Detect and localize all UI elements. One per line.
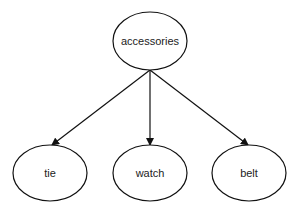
tree-diagram: accessories tie watch belt <box>0 0 299 214</box>
node-label-belt: belt <box>240 167 258 179</box>
node-accessories: accessories <box>113 12 187 70</box>
node-tie: tie <box>13 145 87 201</box>
node-label-tie: tie <box>44 167 56 179</box>
node-label-accessories: accessories <box>121 35 180 47</box>
edge-accessories-belt <box>150 70 248 145</box>
node-watch: watch <box>113 145 187 201</box>
node-belt: belt <box>212 145 286 201</box>
edge-accessories-tie <box>52 70 150 145</box>
node-label-watch: watch <box>135 167 165 179</box>
